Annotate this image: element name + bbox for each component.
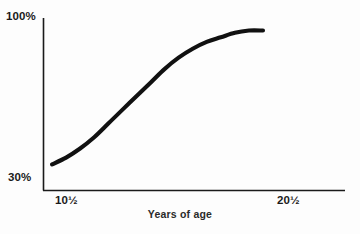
chart-plot-area <box>0 0 360 234</box>
x-axis-tick-label-right: 20½ <box>277 194 300 206</box>
y-axis-tick-label-top: 100% <box>6 10 36 22</box>
y-axis-tick-label-bottom: 30% <box>8 171 31 183</box>
x-axis-tick-label-left: 10½ <box>55 194 78 206</box>
x-axis-title: Years of age <box>0 208 360 220</box>
data-series-line <box>52 30 263 164</box>
chart-figure: 100% 30% 10½ 20½ Years of age <box>0 0 360 234</box>
